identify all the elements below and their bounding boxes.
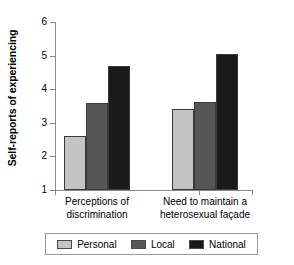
y-axis-tick-label: 2 [41,149,47,162]
y-axis-tick-label: 4 [41,82,47,95]
x-axis-line [55,190,253,191]
y-axis-tick-label: 6 [41,15,47,28]
bar [108,66,130,190]
legend-swatch [131,240,146,249]
x-axis-divider [199,190,200,195]
y-axis-tick-mark [50,56,55,57]
chart-legend: PersonalLocalNational [45,233,258,255]
y-axis-tick-mark [50,89,55,90]
y-axis-title: Self-reports of experiencing [0,0,24,196]
y-axis-tick-mark [50,123,55,124]
bar [194,102,216,190]
legend-item: Personal [57,239,116,250]
bar [172,109,194,190]
bar [86,103,108,190]
legend-label: National [209,239,246,250]
y-axis-tick-label: 5 [41,49,47,62]
y-axis-title-text: Self-reports of experiencing [6,30,18,167]
x-axis-category-label: Need to maintain a heterosexual façade [143,196,267,221]
x-axis-category-label: Perceptions of discrimination [35,196,159,221]
bar-chart: Self-reports of experiencing 123456 Perc… [0,0,294,265]
x-axis-divider [55,190,56,195]
legend-item: Local [131,239,175,250]
y-axis-line [55,22,56,190]
legend-label: Personal [77,239,116,250]
y-axis-tick-label: 1 [41,183,47,196]
legend-label: Local [151,239,175,250]
x-axis-divider [252,190,253,195]
y-axis-tick-label: 3 [41,116,47,129]
plot-area: 123456 [55,22,253,190]
legend-swatch [57,240,72,249]
y-axis-tick-mark [50,22,55,23]
legend-swatch [189,240,204,249]
y-axis-tick-mark [50,156,55,157]
bar [216,54,238,190]
legend-item: National [189,239,246,250]
bar [64,136,86,190]
